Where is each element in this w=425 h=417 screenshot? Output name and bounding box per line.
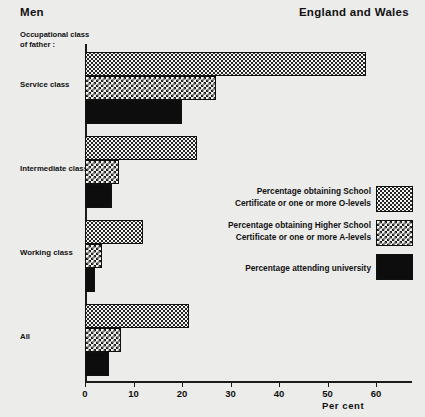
x-axis-title: Per cent — [322, 400, 364, 411]
bar — [85, 76, 216, 100]
legend-label: Percentage obtaining Higher School Certi… — [228, 220, 371, 243]
legend-label: Percentage obtaining School Certificate … — [235, 186, 371, 209]
bar — [85, 268, 95, 292]
chart-title-left: Men — [20, 6, 44, 18]
x-axis-tick — [376, 382, 377, 387]
x-axis-tick-label: 10 — [128, 388, 139, 399]
bar-chart: Men England and Wales Occupational class… — [0, 0, 425, 417]
bar — [85, 136, 197, 160]
bar — [85, 328, 121, 352]
category-label: Working class — [20, 248, 73, 257]
bar — [85, 220, 143, 244]
x-axis-tick-label: 0 — [82, 388, 87, 399]
chart-legend: Percentage obtaining School Certificate … — [205, 186, 413, 288]
x-axis-tick-label: 30 — [225, 388, 236, 399]
x-axis-tick-label: 40 — [274, 388, 285, 399]
bar — [85, 52, 366, 76]
legend-item: Percentage obtaining Higher School Certi… — [205, 220, 413, 250]
legend-swatch-higher-school-certificate — [376, 220, 413, 246]
legend-swatch-school-certificate — [376, 186, 413, 212]
x-axis-tick — [85, 382, 86, 387]
bar — [85, 244, 102, 268]
legend-item: Percentage obtaining School Certificate … — [205, 186, 413, 216]
bar — [85, 100, 182, 124]
category-label: All — [20, 332, 30, 341]
category-label: Intermediate class — [20, 164, 88, 173]
bar — [85, 160, 119, 184]
x-axis-tick-label: 60 — [371, 388, 382, 399]
x-axis-tick-label: 20 — [177, 388, 188, 399]
x-axis-tick — [182, 382, 183, 387]
category-label: Service class — [20, 80, 69, 89]
x-axis-tick — [279, 382, 280, 387]
legend-swatch-university — [376, 254, 413, 280]
legend-label: Percentage attending university — [245, 263, 371, 275]
x-axis-tick — [231, 382, 232, 387]
x-axis-tick — [134, 382, 135, 387]
bar — [85, 184, 112, 208]
chart-title-right: England and Wales — [299, 6, 409, 18]
bar — [85, 352, 109, 376]
legend-item: Percentage attending university — [205, 254, 413, 284]
x-axis-tick-label: 50 — [322, 388, 333, 399]
y-axis-caption: Occupational class of father : — [20, 30, 89, 50]
bar — [85, 304, 189, 328]
x-axis-tick — [328, 382, 329, 387]
